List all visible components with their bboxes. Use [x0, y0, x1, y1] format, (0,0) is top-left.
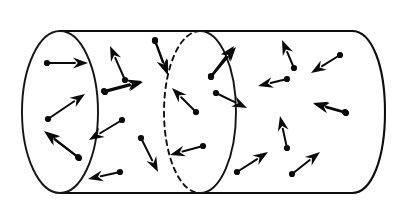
- vector-arrow-14-tail-dot: [291, 65, 297, 71]
- vector-arrow-25-shaft: [55, 140, 79, 158]
- vector-arrow-07: [89, 117, 125, 140]
- vector-arrow-13-tail-dot: [213, 90, 219, 96]
- vector-arrow-10-tail-dot: [193, 109, 199, 115]
- vector-arrow-25: [45, 132, 82, 161]
- vector-arrow-01-tail-dot: [44, 60, 50, 66]
- figure-container: [0, 0, 402, 216]
- vector-arrow-08-shaft: [141, 138, 152, 160]
- vector-arrow-16: [258, 76, 290, 88]
- vector-arrow-11: [170, 143, 206, 156]
- vector-arrow-25-tail-dot: [76, 155, 82, 161]
- cylinder-group: [22, 31, 385, 193]
- vector-arrow-19-head: [252, 152, 268, 165]
- vector-arrow-21-tail-dot: [152, 38, 158, 44]
- vector-arrow-04-shaft: [115, 58, 125, 80]
- vector-arrow-15-shaft: [322, 55, 340, 66]
- vector-arrow-13-shaft: [216, 93, 235, 102]
- vector-arrow-20-head: [305, 152, 320, 166]
- cylinder-right-cap: [352, 31, 385, 193]
- cylinder-vector-field-diagram: [0, 0, 402, 216]
- vector-arrow-24-shaft: [105, 85, 130, 92]
- vector-arrow-20-shaft: [292, 160, 310, 174]
- vector-arrow-08-tail-dot: [138, 135, 144, 141]
- vector-arrow-07-tail-dot: [119, 117, 125, 123]
- vector-arrow-02: [45, 94, 85, 122]
- vector-arrow-07-shaft: [100, 120, 122, 133]
- vector-arrow-18-tail-dot: [284, 145, 290, 151]
- vector-arrow-13: [213, 90, 247, 108]
- vector-arrow-15: [311, 52, 343, 73]
- vector-arrow-23-tail-dot: [343, 110, 349, 116]
- vector-arrow-09: [88, 169, 123, 181]
- vector-arrow-02-tail-dot: [45, 116, 51, 122]
- vector-arrow-19-shaft: [237, 159, 257, 172]
- vector-arrow-24-tail-dot: [102, 89, 108, 95]
- vector-arrow-22-shaft: [211, 57, 228, 77]
- vector-arrow-22-tail-dot: [208, 74, 214, 80]
- vector-arrow-11-shaft: [183, 146, 203, 152]
- vector-arrow-05-shaft: [104, 84, 129, 91]
- vector-field-layer: [44, 37, 349, 181]
- vector-arrow-10: [172, 88, 199, 115]
- vector-arrow-02-head: [69, 94, 85, 107]
- vector-arrow-18: [278, 116, 290, 151]
- vector-arrow-20: [289, 152, 320, 177]
- vector-arrow-04: [110, 46, 128, 83]
- vector-arrow-14: [282, 40, 297, 71]
- vector-arrow-20-tail-dot: [289, 171, 295, 177]
- vector-arrow-02-shaft: [48, 101, 74, 119]
- vector-arrow-11-tail-dot: [200, 143, 206, 149]
- vector-arrow-15-head: [311, 60, 327, 73]
- vector-arrow-09-tail-dot: [117, 169, 123, 175]
- vector-arrow-16-tail-dot: [284, 76, 290, 82]
- vector-arrow-24: [102, 80, 143, 95]
- vector-arrow-15-tail-dot: [337, 52, 343, 58]
- vector-arrow-19-tail-dot: [234, 169, 240, 175]
- vector-arrow-01: [44, 58, 88, 69]
- vector-arrow-08: [138, 135, 158, 172]
- vector-arrow-19: [234, 152, 268, 175]
- vector-arrow-21-shaft: [155, 41, 163, 62]
- vector-arrow-21: [152, 38, 167, 74]
- vector-arrow-10-shaft: [181, 97, 196, 112]
